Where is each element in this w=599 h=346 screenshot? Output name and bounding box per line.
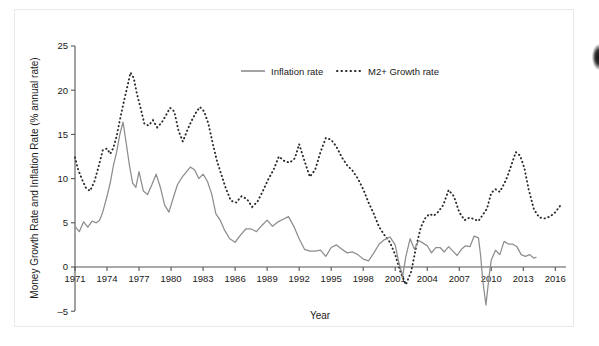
chart-legend: Inflation rate M2+ Growth rate: [241, 66, 439, 77]
x-tick-label-2004: 2004: [417, 273, 438, 284]
y-tick-label--5: –5: [57, 306, 68, 317]
x-tick-label-2016: 2016: [545, 273, 566, 284]
x-axis: 1971197419771980198319861989199219951998…: [64, 267, 566, 284]
y-axis-title: Money Growth Rate and Inflation Rate (% …: [29, 57, 40, 298]
x-tick-label-1971: 1971: [64, 273, 85, 284]
x-tick-label-1980: 1980: [160, 273, 181, 284]
y-tick-label-10: 10: [57, 173, 68, 184]
y-tick-label-15: 15: [57, 129, 68, 140]
x-tick-label-1989: 1989: [257, 273, 278, 284]
x-tick-label-2007: 2007: [449, 273, 470, 284]
x-tick-label-1998: 1998: [353, 273, 374, 284]
chart-figure: –50510152025 197119741977198019831986198…: [0, 0, 599, 346]
x-tick-label-1983: 1983: [193, 273, 214, 284]
x-tick-label-1974: 1974: [96, 273, 117, 284]
y-tick-label-5: 5: [63, 217, 68, 228]
x-axis-title: Year: [310, 310, 331, 321]
x-tick-label-1977: 1977: [128, 273, 149, 284]
x-tick-label-2013: 2013: [513, 273, 534, 284]
x-tick-label-1992: 1992: [289, 273, 310, 284]
x-tick-label-1995: 1995: [321, 273, 342, 284]
x-tick-group: 1971197419771980198319861989199219951998…: [64, 267, 565, 284]
y-tick-label-0: 0: [63, 261, 68, 272]
line-chart-svg: –50510152025 197119741977198019831986198…: [0, 0, 599, 346]
x-tick-label-1986: 1986: [225, 273, 246, 284]
x-tick-label-2010: 2010: [481, 273, 502, 284]
legend-label-inflation-rate: Inflation rate: [271, 66, 323, 77]
legend-label-m2-growth-rate: M2+ Growth rate: [368, 66, 439, 77]
y-tick-label-20: 20: [57, 85, 68, 96]
y-tick-label-25: 25: [57, 40, 68, 51]
data-series-group: [75, 73, 561, 305]
series-m2-growth-rate: [75, 73, 561, 285]
